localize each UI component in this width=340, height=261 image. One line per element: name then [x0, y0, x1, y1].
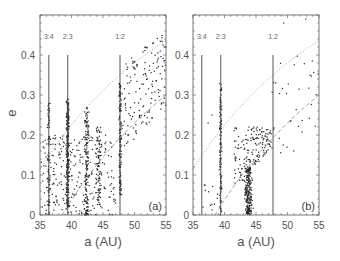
data-point	[80, 154, 81, 155]
data-point	[92, 149, 93, 150]
data-point	[141, 115, 142, 116]
dashed-curve	[215, 95, 319, 215]
x-tick-label: 50	[282, 220, 294, 231]
data-point	[105, 149, 106, 150]
data-point	[151, 98, 152, 99]
data-point	[83, 136, 84, 137]
data-point	[236, 128, 237, 129]
data-point	[249, 203, 250, 204]
data-point	[42, 206, 43, 207]
data-point	[110, 185, 111, 186]
data-point	[68, 102, 69, 103]
data-point	[247, 209, 248, 210]
data-point	[66, 124, 67, 125]
data-point	[78, 177, 79, 178]
data-point	[133, 127, 134, 128]
data-point	[252, 128, 253, 129]
data-point	[88, 160, 89, 161]
data-point	[97, 131, 98, 132]
data-point	[279, 138, 280, 139]
data-point	[98, 190, 99, 191]
data-point	[219, 150, 220, 151]
data-point	[96, 174, 97, 175]
data-point	[68, 108, 69, 109]
data-point	[99, 183, 100, 184]
data-point	[212, 186, 213, 187]
data-point	[68, 197, 69, 198]
data-point	[53, 138, 54, 139]
data-point	[234, 170, 235, 171]
data-point	[252, 154, 253, 155]
data-point	[255, 160, 256, 161]
data-point	[52, 184, 53, 185]
data-point	[78, 150, 79, 151]
data-point	[258, 143, 259, 144]
data-point	[245, 158, 246, 159]
data-point	[250, 201, 251, 202]
data-point	[44, 147, 45, 148]
data-point	[125, 110, 126, 111]
data-point	[69, 145, 70, 146]
data-point	[210, 205, 211, 206]
data-point	[85, 149, 86, 150]
data-point	[164, 98, 165, 99]
data-point	[250, 199, 251, 200]
data-point	[87, 114, 88, 115]
data-point	[55, 144, 56, 145]
data-point	[244, 176, 245, 177]
data-point	[47, 127, 48, 128]
data-point	[99, 143, 100, 144]
data-point	[211, 204, 212, 205]
data-point	[146, 47, 147, 48]
data-point	[152, 117, 153, 118]
y-tick-label: 0.2	[21, 130, 35, 141]
data-point	[88, 126, 89, 127]
data-point	[87, 153, 88, 154]
data-point	[249, 159, 250, 160]
data-point	[88, 120, 89, 121]
data-point	[136, 64, 137, 65]
data-point	[266, 152, 267, 153]
data-point	[62, 139, 63, 140]
data-point	[47, 109, 48, 110]
data-point	[283, 22, 284, 23]
x-tick-label: 35	[187, 220, 199, 231]
data-point	[134, 68, 135, 69]
data-point	[126, 75, 127, 76]
data-point	[80, 157, 81, 158]
data-point	[132, 116, 133, 117]
data-point	[147, 117, 148, 118]
data-point	[92, 193, 93, 194]
data-point	[244, 194, 245, 195]
data-point	[65, 177, 66, 178]
data-point	[248, 171, 249, 172]
data-point	[98, 171, 99, 172]
data-point	[317, 73, 318, 74]
data-point	[244, 166, 245, 167]
data-point	[245, 185, 246, 186]
data-point	[98, 165, 99, 166]
data-point	[248, 202, 249, 203]
data-point	[122, 125, 123, 126]
data-point	[204, 185, 205, 186]
y-tick-label: 0.1	[175, 170, 189, 181]
y-tick-label: 0	[183, 210, 189, 221]
data-point	[251, 130, 252, 131]
data-point	[251, 205, 252, 206]
data-point	[71, 152, 72, 153]
data-point	[88, 163, 89, 164]
data-point	[68, 179, 69, 180]
data-point	[56, 202, 57, 203]
data-point	[149, 65, 150, 66]
data-point	[214, 204, 215, 205]
data-point	[247, 200, 248, 201]
data-point	[66, 184, 67, 185]
data-point	[111, 191, 112, 192]
data-point	[113, 194, 114, 195]
data-point	[160, 109, 161, 110]
data-point	[245, 210, 246, 211]
data-point	[76, 185, 77, 186]
data-point	[66, 151, 67, 152]
data-point	[158, 58, 159, 59]
data-point	[90, 193, 91, 194]
